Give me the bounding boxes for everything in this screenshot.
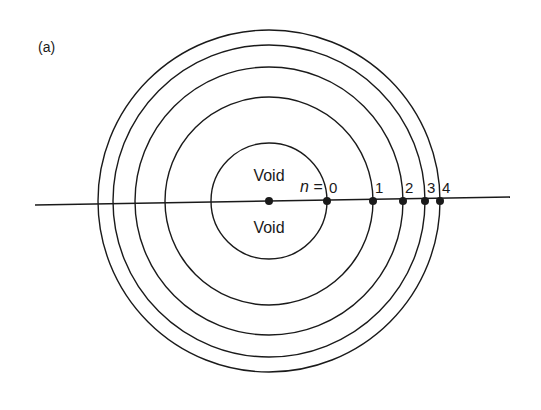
void-label-top: Void <box>253 167 284 184</box>
shell-dot-n2 <box>399 197 407 205</box>
shell-dot-n3 <box>421 197 429 205</box>
shell-index-label-n2: 2 <box>405 179 413 196</box>
void-label-bottom: Void <box>253 219 284 236</box>
shell-dot-n1 <box>369 197 377 205</box>
panel-label: (a) <box>38 39 55 55</box>
shell-index-label-n3: 3 <box>427 179 435 196</box>
shell-dot-n4 <box>436 197 444 205</box>
shell-dot-n0 <box>323 197 331 205</box>
shell-index-label-n0: 0 <box>329 179 337 196</box>
index-prefix-label: n = <box>300 178 323 195</box>
concentric-shells-diagram: (a) Void Void n = 01234 <box>0 0 541 410</box>
shell-index-label-n4: 4 <box>442 179 450 196</box>
shell-index-labels: 01234 <box>329 179 450 196</box>
shell-index-label-n1: 1 <box>375 179 383 196</box>
center-dot <box>265 197 273 205</box>
